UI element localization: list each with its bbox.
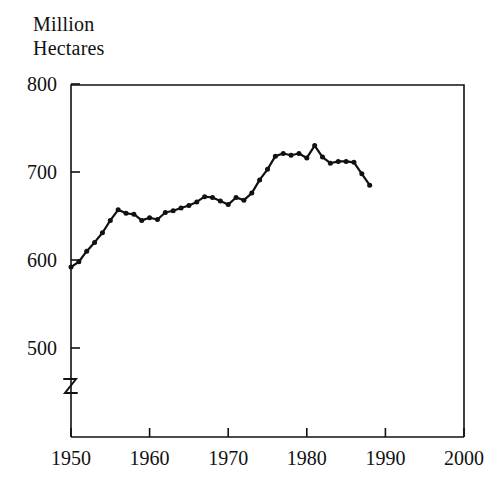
data-point: [116, 207, 121, 212]
data-series-line: [71, 146, 370, 267]
data-point: [202, 194, 207, 199]
x-tick-label: 1980: [287, 447, 327, 469]
data-point: [257, 177, 262, 182]
x-tick-label: 1990: [365, 447, 405, 469]
x-axis-ticks: [71, 428, 464, 437]
data-point: [296, 151, 301, 156]
data-point: [312, 143, 317, 148]
data-series-markers: [69, 143, 373, 269]
data-point: [210, 195, 215, 200]
y-axis-tick-labels: 500600700800: [27, 73, 57, 359]
data-point: [84, 249, 89, 254]
x-tick-label: 2000: [444, 447, 484, 469]
data-point: [328, 161, 333, 166]
data-point: [100, 230, 105, 235]
y-tick-label: 700: [27, 161, 57, 183]
x-axis-tick-labels: 195019601970198019902000: [51, 447, 484, 469]
data-point: [359, 171, 364, 176]
data-point: [124, 211, 129, 216]
data-point: [265, 167, 270, 172]
data-point: [131, 212, 136, 217]
data-point: [108, 218, 113, 223]
data-point: [147, 215, 152, 220]
data-point: [273, 154, 278, 159]
data-point: [186, 203, 191, 208]
data-point: [69, 265, 74, 270]
x-tick-label: 1960: [130, 447, 170, 469]
data-point: [194, 199, 199, 204]
data-point: [171, 208, 176, 213]
data-point: [139, 218, 144, 223]
y-tick-label: 500: [27, 337, 57, 359]
data-point: [249, 191, 254, 196]
line-chart-plot: 500600700800 195019601970198019902000: [0, 0, 503, 488]
data-point: [351, 160, 356, 165]
data-point: [304, 155, 309, 160]
data-point: [234, 195, 239, 200]
chart-root: Million Hectares 500600700800 1950196019…: [0, 0, 503, 488]
data-point: [218, 199, 223, 204]
data-point: [344, 159, 349, 164]
data-point: [179, 206, 184, 211]
x-tick-label: 1950: [51, 447, 91, 469]
data-point: [281, 151, 286, 156]
data-point: [289, 153, 294, 158]
data-point: [226, 202, 231, 207]
data-point: [367, 183, 372, 188]
y-axis-ticks: [71, 84, 80, 348]
y-tick-label: 600: [27, 249, 57, 271]
data-point: [241, 198, 246, 203]
data-point: [155, 217, 160, 222]
plot-frame: [71, 85, 464, 437]
data-point: [76, 259, 81, 264]
data-point: [163, 210, 168, 215]
x-tick-label: 1970: [208, 447, 248, 469]
data-point: [92, 240, 97, 245]
data-point: [320, 155, 325, 160]
y-tick-label: 800: [27, 73, 57, 95]
data-point: [336, 159, 341, 164]
